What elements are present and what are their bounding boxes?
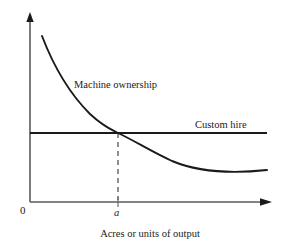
series-label-custom-hire: Custom hire <box>195 120 247 131</box>
x-axis <box>30 198 272 206</box>
y-axis <box>26 12 33 202</box>
x-tick-label-a: a <box>114 208 119 219</box>
cost-comparison-chart: Cost per unit ($) Acres or units of outp… <box>0 0 287 246</box>
series-label-machine-ownership: Machine ownership <box>74 80 157 91</box>
origin-label: 0 <box>20 205 26 216</box>
x-axis-title: Acres or units of output <box>66 229 234 240</box>
machine-ownership-curve <box>42 36 267 172</box>
